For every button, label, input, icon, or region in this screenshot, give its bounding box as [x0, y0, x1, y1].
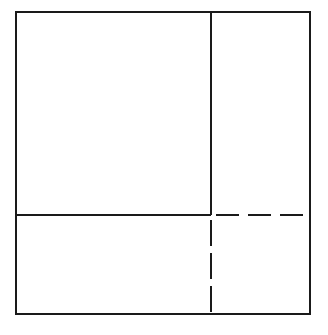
- diagram-background: [0, 0, 328, 335]
- diagram-canvas: [0, 0, 328, 335]
- geometric-diagram-svg: [0, 0, 328, 335]
